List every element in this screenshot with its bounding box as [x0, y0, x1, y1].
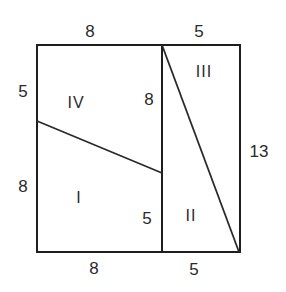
region-label-iv: IV: [67, 95, 84, 111]
dimension-top-left: 8: [85, 23, 94, 40]
slanted-cut: [37, 121, 162, 173]
dimension-inner-upper: 8: [144, 91, 153, 108]
dimension-inner-lower: 5: [142, 210, 151, 227]
dimension-top-right: 5: [194, 23, 203, 40]
dimension-left-upper: 5: [18, 83, 27, 100]
region-label-iii: III: [196, 64, 212, 80]
region-label-i: I: [76, 190, 81, 206]
dimension-left-lower: 8: [18, 178, 27, 195]
dimension-bottom-right: 5: [189, 261, 198, 278]
region-label-ii: II: [186, 208, 197, 224]
dimension-bottom-left: 8: [89, 260, 98, 277]
dimension-right: 13: [250, 143, 269, 160]
dissection-diagram: [0, 0, 286, 292]
